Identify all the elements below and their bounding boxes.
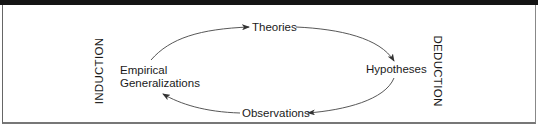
node-empirical-line2: Generalizations bbox=[120, 77, 200, 90]
arrow-empirical-to-theories bbox=[151, 27, 249, 60]
arrow-observations-to-empirical bbox=[163, 94, 240, 113]
node-theories: Theories bbox=[252, 21, 297, 34]
node-observations: Observations bbox=[242, 107, 310, 120]
label-deduction: DEDUCTION bbox=[432, 35, 444, 106]
arrow-theories-to-hypotheses bbox=[296, 27, 394, 61]
label-induction: INDUCTION bbox=[93, 38, 105, 105]
node-hypotheses: Hypotheses bbox=[366, 63, 427, 76]
node-empirical-line1: Empirical bbox=[120, 64, 167, 77]
arrow-hypotheses-to-observations bbox=[308, 78, 394, 113]
